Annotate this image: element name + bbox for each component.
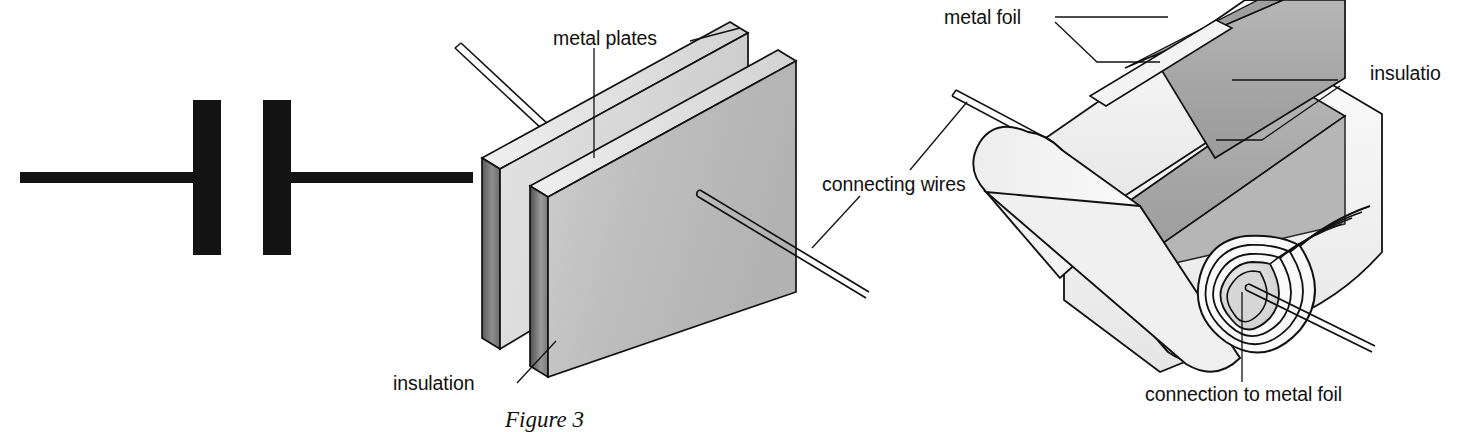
label-insulation-plate: insulation (393, 374, 474, 394)
label-insulation-roll: insulatio (1370, 64, 1441, 84)
figure-caption: Figure 3 (505, 408, 584, 431)
front-plate-left-edge (530, 186, 548, 377)
label-metal-plates: metal plates (553, 29, 657, 49)
symbol-lead-left (20, 172, 210, 183)
back-plate-left-edge (482, 158, 500, 349)
label-metal-foil: metal foil (944, 8, 1021, 28)
label-connection-to-metal-foil: connection to metal foil (1145, 385, 1342, 405)
label-connecting-wires: connecting wires (822, 175, 966, 195)
symbol-plate-right (263, 100, 291, 255)
symbol-lead-right (283, 172, 473, 183)
symbol-plate-left (193, 100, 221, 255)
